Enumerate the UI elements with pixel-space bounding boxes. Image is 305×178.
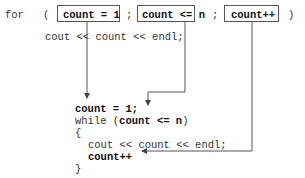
- condition-arrow: [148, 21, 185, 105]
- for-to-while-diagram: for ( count = 1 ; count <= n ; count++ )…: [0, 0, 305, 178]
- increment-arrow: [142, 21, 252, 151]
- connector-arrows: [0, 0, 305, 178]
